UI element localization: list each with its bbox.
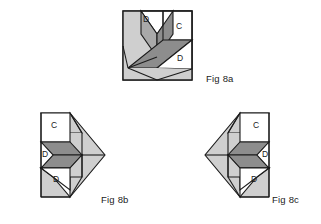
fig8c-label-d-mid: D [262,149,268,159]
fig8c-label-c: C [253,120,259,130]
fig8a-label-d-right: D [177,53,183,63]
figure-stage: D C D [0,0,321,224]
figure-8c-group: C D D [205,113,269,197]
diagram-canvas: D C D [0,0,321,224]
caption-fig-8a: Fig 8a [206,73,234,84]
fig8a-label-d-top: D [143,14,149,24]
fig8b-label-d-bottom: D [53,174,59,184]
figure-8b-group: C D D [41,113,105,197]
fig8a-label-c: C [176,21,182,31]
fig8c-label-d-bottom: D [251,174,257,184]
fig8b-label-d-mid: D [42,149,48,159]
caption-fig-8b: Fig 8b [101,194,129,205]
caption-fig-8c: Fig 8c [272,194,299,205]
figure-8a-group: D C D [123,11,192,80]
fig8b-label-c: C [51,120,57,130]
